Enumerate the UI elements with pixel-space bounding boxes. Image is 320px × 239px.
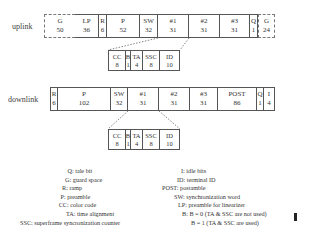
legend-item: CC: color code: [20, 201, 120, 210]
legend-item: B: B = 0 (TA & SSC are not used): [160, 210, 267, 219]
legend-item: POST: postamble: [160, 184, 267, 193]
legend-item: TA: time alignment: [20, 210, 120, 219]
legend-item: ID: terminal ID: [160, 176, 267, 185]
legend-item: B = 1 (TA & SSC are used): [160, 219, 267, 228]
legend-item: R: ramp: [20, 184, 120, 193]
legend-item: SSC: superframe syncronization counter: [20, 219, 120, 228]
legend-item: LP: preamble for linearizer: [160, 201, 267, 210]
legend-item: SW: synchronization word: [160, 193, 267, 202]
edge-mark: [294, 213, 297, 221]
legend-left: Q: tale bit G: guard space R: ramp P: pr…: [20, 167, 120, 227]
legend-item: G: guard space: [20, 176, 120, 185]
legend-right: I: idle bits ID: terminal ID POST: posta…: [160, 167, 267, 227]
legend-item: P: preamble: [20, 193, 120, 202]
legend-item: Q: tale bit: [20, 167, 120, 176]
legend-item: I: idle bits: [160, 167, 267, 176]
